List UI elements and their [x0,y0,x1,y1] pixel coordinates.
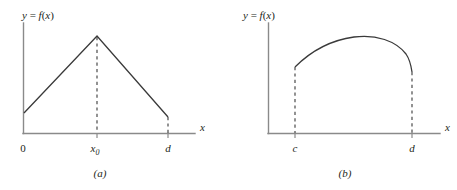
panel-b-x-axis-label: x [444,121,450,133]
panel-b-y-axis-label: y = f(x) [242,9,275,22]
panel-b-tick-label-c: c [293,142,298,154]
panel-b-chart: y = f(x) x c d (b) [228,0,457,190]
panel-b-y-axis-label-eq: = [248,9,260,21]
panel-b-y-axis-label-close: ) [271,9,275,22]
panel-a-tick-label-x0-subscript: 0 [95,148,99,157]
panel-a-tick-label-origin: 0 [20,142,26,154]
panel-a-tick-label-d: d [165,142,171,154]
panel-a-y-axis-label: y = f(x) [21,9,54,22]
panel-b-tick-label-d: d [409,142,415,154]
panel-b-caption: (b) [339,167,352,180]
panel-a-y-axis-label-close: ) [50,9,54,22]
panel-a-x-axis-label: x [199,121,205,133]
figure-root: y = f(x) x 0 x0 d (a) y = f(x) [0,0,457,190]
panel-a-function-curve [24,36,168,117]
panel-b-function-curve [295,36,412,72]
panel-a-tick-label-x0: x0 [90,142,100,157]
panel-a-caption: (a) [94,167,107,180]
panel-a-chart: y = f(x) x 0 x0 d (a) [0,0,228,190]
panel-a-y-axis-label-eq: = [27,9,39,21]
